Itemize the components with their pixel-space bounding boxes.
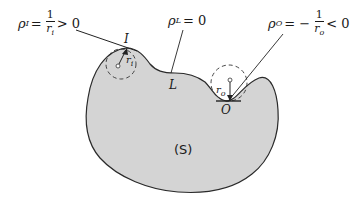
leader-line-rho-l (171, 30, 183, 73)
denominator: ro (314, 22, 324, 37)
relation: > 0 (57, 16, 80, 31)
radius-label-o: ro (216, 84, 226, 98)
radius-subscript: i (131, 59, 134, 68)
fraction: 1 ro (314, 9, 324, 37)
rho-subscript: O (276, 19, 283, 28)
equals-minus: = − (284, 16, 310, 31)
formula-rho-l: ρL = 0 (168, 13, 206, 28)
relation: < 0 (326, 16, 349, 31)
numerator: 1 (46, 9, 55, 22)
rho-symbol: ρ (168, 13, 176, 28)
radius-label-i: ri (126, 54, 133, 68)
formula-rho-o: ρO = − 1 ro < 0 (268, 9, 350, 37)
denominator: ri (46, 22, 54, 37)
rho-symbol: ρ (268, 16, 276, 31)
center-dot-i (116, 64, 120, 68)
region-label: (S) (174, 142, 192, 157)
formula-rho-i: ρI = 1 ri > 0 (18, 9, 80, 37)
denominator-subscript: o (319, 28, 324, 37)
equals-sign: = (31, 16, 42, 31)
point-label-o: O (221, 103, 231, 117)
point-label-i: I (124, 32, 129, 46)
rho-subscript: I (26, 19, 29, 28)
denominator-subscript: i (52, 28, 55, 37)
radius-subscript: o (221, 89, 226, 98)
numerator: 1 (315, 9, 324, 22)
region-s-shape (86, 48, 278, 192)
rho-subscript: L (176, 16, 181, 25)
point-label-l: L (169, 78, 177, 92)
center-dot-o (228, 78, 232, 82)
fraction: 1 ri (46, 9, 55, 37)
equals-zero: = 0 (183, 13, 206, 28)
rho-symbol: ρ (18, 16, 26, 31)
